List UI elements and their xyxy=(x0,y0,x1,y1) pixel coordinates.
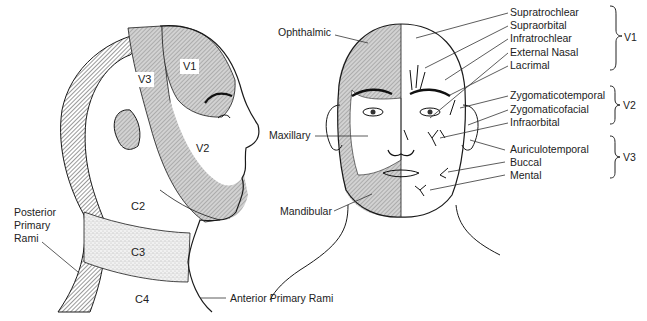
maxillary-region xyxy=(350,90,401,175)
nerve-lacrimal: Lacrimal xyxy=(510,59,550,71)
nerve-infratrochlear: Infratrochlear xyxy=(510,32,572,44)
nerve-external-nasal: External Nasal xyxy=(510,46,578,58)
right-eyebrow xyxy=(410,90,450,96)
nerve-supratrochlear: Supratrochlear xyxy=(510,6,579,18)
division-v1-label: V1 xyxy=(624,31,637,43)
posterior-rami-label-line2: Primary xyxy=(14,219,50,231)
zone-label-v3: V3 xyxy=(135,72,154,87)
mandibular-label: Mandibular xyxy=(280,205,332,217)
nerve-mental: Mental xyxy=(510,169,542,181)
division-v2-label: V2 xyxy=(623,99,636,111)
right-pupil xyxy=(428,110,433,115)
zone-label-c4: C4 xyxy=(135,293,149,306)
neck-right xyxy=(456,205,500,255)
nerve-zygomaticotemporal: Zygomaticotemporal xyxy=(510,89,605,101)
zone-label-c2: C2 xyxy=(131,200,145,213)
maxillary-label: Maxillary xyxy=(269,129,310,141)
nerve-infraorbital: Infraorbital xyxy=(510,116,560,128)
zone-label-v1: V1 xyxy=(180,59,199,74)
v2-jaw-band xyxy=(168,100,248,220)
lateral-head xyxy=(42,26,259,312)
nerve-buccal: Buccal xyxy=(510,156,542,168)
zone-label-v2: V2 xyxy=(196,142,209,155)
posterior-rami-label-line1: Posterior xyxy=(14,206,56,218)
neck-left xyxy=(270,205,348,300)
division-v3-label: V3 xyxy=(623,151,636,163)
nerve-auriculotemporal: Auriculotemporal xyxy=(510,143,589,155)
posterior-rami-label-line3: Rami xyxy=(14,232,39,244)
innervation-diagram: V1 V2 V3 C2 C3 C4 Posterior Primary Rami… xyxy=(0,0,647,321)
posterior-rami-leader xyxy=(42,242,78,272)
nerve-supraorbital: Supraorbital xyxy=(510,19,567,31)
ophthalmic-label: Ophthalmic xyxy=(278,26,331,38)
ear xyxy=(114,110,140,150)
nerve-zygomaticofacial: Zygomaticofacial xyxy=(510,103,589,115)
left-pupil xyxy=(371,110,376,115)
zone-label-c3: C3 xyxy=(131,246,145,259)
nerve-leaders xyxy=(416,13,508,190)
nerve-branches xyxy=(404,65,455,196)
division-brackets xyxy=(610,6,622,178)
anterior-rami-label: Anterior Primary Rami xyxy=(230,292,333,304)
